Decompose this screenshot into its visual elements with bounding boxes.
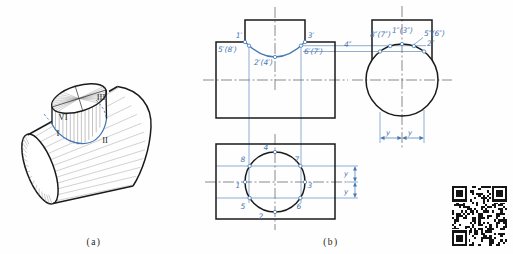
pictorial-label-VI: VI	[59, 112, 68, 122]
side-point-2	[422, 50, 425, 53]
top-label-8: 8	[241, 155, 246, 164]
side-leader-5-6	[414, 38, 424, 46]
front-point-6-7	[299, 44, 302, 47]
top-label-1: 1	[236, 181, 241, 190]
top-label-2: 2	[259, 212, 264, 221]
side-label-1-3: 1″(3″)	[392, 26, 413, 35]
top-point-1	[243, 180, 246, 183]
top-view: 4 8 7 1 3 5 6 2 y y (b)	[205, 134, 358, 248]
top-point-5	[248, 196, 251, 199]
side-label-8-7: 8″(7″)	[370, 30, 391, 39]
top-label-6: 6	[297, 202, 302, 211]
hidden-intersection-curve-left	[44, 114, 52, 124]
side-dim-label-y2: y	[407, 129, 413, 137]
figure-canvas: III VI I II (a) 1′ 3′ 5′(8′) 6′(7′) 2′(4…	[0, 0, 513, 254]
front-label-6-7: 6′(7′)	[304, 47, 323, 56]
front-label-2-4: 2′(4′)	[254, 58, 273, 67]
pictorial-label-II: II	[102, 135, 108, 145]
top-label-4: 4	[264, 143, 269, 152]
pictorial-label-I: I	[57, 128, 60, 138]
pictorial-view: III VI I II (a)	[14, 78, 151, 248]
top-label-5: 5	[241, 202, 246, 211]
front-point-5-8	[247, 44, 250, 47]
front-point-3	[303, 40, 306, 43]
front-point-2-4	[273, 55, 276, 58]
front-view: 1′ 3′ 5′(8′) 6′(7′) 2′(4′)	[203, 7, 426, 203]
side-point-8-7	[389, 44, 392, 47]
big-cylinder-bottom-edge	[53, 186, 133, 204]
top-label-7: 7	[295, 155, 300, 164]
qr-code	[452, 186, 507, 246]
side-point-5-6	[412, 44, 415, 47]
top-point-3	[303, 180, 306, 183]
side-point-4	[378, 50, 381, 53]
front-label-5-8: 5′(8′)	[218, 45, 237, 54]
small-cylinder-right-edge	[106, 90, 107, 119]
side-label-5-6: 5″(6″)	[424, 29, 445, 38]
big-cylinder-top-edge-left	[28, 122, 52, 136]
side-label-2: 2″	[427, 39, 435, 48]
top-point-2	[273, 210, 276, 213]
caption-a: (a)	[86, 237, 101, 248]
top-point-7	[299, 164, 302, 167]
pictorial-label-III: III	[97, 92, 106, 102]
side-label-4: 4″	[344, 40, 352, 49]
top-point-6	[299, 196, 302, 199]
top-label-3: 3	[308, 181, 313, 190]
engineering-drawing: III VI I II (a) 1′ 3′ 5′(8′) 6′(7′) 2′(4…	[0, 0, 513, 254]
side-dim-label-y1: y	[385, 129, 391, 137]
big-cylinder-end-face	[14, 130, 65, 209]
front-label-3: 3′	[308, 31, 315, 40]
front-point-1	[243, 40, 246, 43]
caption-b: (b)	[323, 237, 339, 248]
top-dim-label-y2: y	[343, 188, 349, 196]
top-big-cylinder-outline	[216, 144, 335, 219]
front-label-1: 1′	[236, 31, 243, 40]
big-cylinder-right-end	[118, 87, 152, 187]
top-dim-label-y1: y	[343, 170, 349, 178]
top-point-8	[248, 164, 251, 167]
side-view: 8″(7″) 1″(3″) 5″(6″) 4″ 2″ y y	[344, 6, 452, 148]
side-point-1-3	[400, 42, 403, 45]
top-point-4	[273, 150, 276, 153]
